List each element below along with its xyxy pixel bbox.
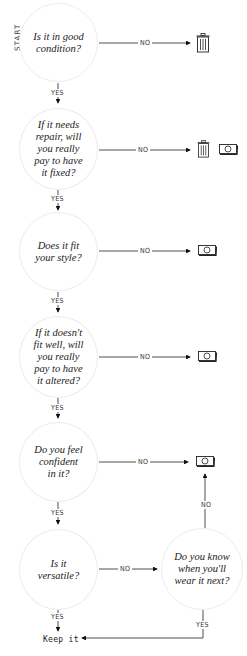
yes-label: YES bbox=[49, 89, 66, 97]
yes-label: YES bbox=[49, 613, 66, 621]
node-repair: If it needs repair, will you really pay … bbox=[19, 108, 98, 190]
flowchart: START Is it in good condition? If it nee… bbox=[0, 0, 247, 656]
node-alter: If it doesn't fit well, will you really … bbox=[19, 316, 98, 398]
yes-label: YES bbox=[49, 509, 66, 517]
trash-icon bbox=[197, 140, 210, 158]
yes-label: YES bbox=[49, 297, 66, 305]
node-style: Does it fit your style? bbox=[19, 212, 98, 291]
no-label: NO bbox=[136, 146, 150, 154]
node-versatile: Is it versatile? bbox=[19, 529, 98, 610]
node-text: Do you know when you'll wear it next? bbox=[169, 551, 235, 587]
node-text: Is it versatile? bbox=[26, 558, 92, 582]
node-text: If it needs repair, will you really pay … bbox=[26, 119, 92, 179]
trash-icon bbox=[196, 33, 210, 53]
yes-label: YES bbox=[194, 621, 211, 629]
keep-it-outcome: Keep it bbox=[43, 635, 79, 644]
no-label: NO bbox=[138, 39, 152, 47]
node-text: If it doesn't fit well, will you really … bbox=[26, 327, 92, 387]
node-wear-next: Do you know when you'll wear it next? bbox=[161, 528, 243, 610]
no-label: NO bbox=[136, 458, 150, 466]
money-icon bbox=[198, 245, 217, 257]
no-label: NO bbox=[138, 353, 152, 361]
no-label: NO bbox=[138, 247, 152, 255]
node-text: Do you feel confident in it? bbox=[26, 444, 92, 480]
node-text: Is it in good condition? bbox=[26, 31, 92, 55]
money-icon bbox=[219, 144, 238, 156]
node-text: Does it fit your style? bbox=[26, 240, 92, 264]
no-label: NO bbox=[199, 501, 213, 509]
yes-label: YES bbox=[49, 195, 66, 203]
no-label: NO bbox=[118, 565, 132, 573]
node-good-condition: Is it in good condition? bbox=[19, 3, 98, 82]
money-icon bbox=[196, 456, 215, 468]
yes-label: YES bbox=[49, 404, 66, 412]
node-confident: Do you feel confident in it? bbox=[19, 422, 98, 502]
money-icon bbox=[198, 351, 217, 363]
